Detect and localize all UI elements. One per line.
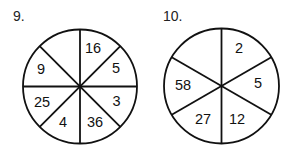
- wheel-10-value-bottom-right: 12: [229, 111, 245, 127]
- wheel-10-value-left: 58: [175, 77, 191, 93]
- wheel-10-value-top-right: 2: [235, 40, 243, 56]
- wheel-9-value-right-upper: 5: [112, 60, 120, 76]
- wheel-9-value-top-right: 16: [85, 40, 101, 56]
- wheel-9-value-left-upper: 9: [37, 61, 45, 77]
- wheel-9-value-bottom-right: 36: [87, 114, 103, 130]
- wheel-9-value-right-lower: 3: [112, 93, 120, 109]
- wheel-10-value-bottom-left: 27: [195, 111, 211, 127]
- wheel-9-value-left-lower: 25: [34, 94, 50, 110]
- wheel-diagrams: 16 5 3 36 4 25 9 2 5 12 27 58: [0, 0, 291, 152]
- wheel-10-value-right: 5: [254, 75, 262, 91]
- wheel-9: [23, 30, 137, 144]
- wheel-9-value-bottom-left: 4: [59, 114, 67, 130]
